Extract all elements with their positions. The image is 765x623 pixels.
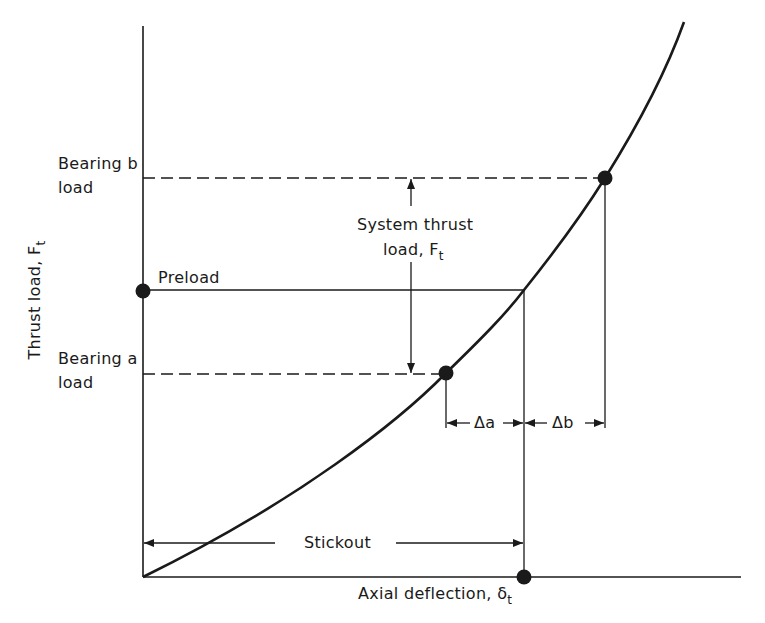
x-axis-label-sub: t <box>507 593 512 607</box>
preload-label: Preload <box>158 268 220 288</box>
preload-point <box>136 284 151 299</box>
bearing-a-label-line2: load <box>58 373 93 393</box>
deflection-point <box>517 570 532 585</box>
system-thrust-label-line2: load, Ft <box>383 240 444 261</box>
system-thrust-label-text: load, F <box>383 240 439 259</box>
bearing-a-point <box>439 366 454 381</box>
delta-a-label: Δa <box>474 413 495 433</box>
bearing-a-label-line1: Bearing a <box>58 349 138 369</box>
system-thrust-label-sub: t <box>439 249 444 263</box>
load-deflection-curve <box>143 22 684 577</box>
delta-b-label: Δb <box>552 413 574 433</box>
system-thrust-label-line1: System thrust <box>357 215 473 235</box>
diagram-canvas: Thrust load, Ft Bearing b load Bearing a… <box>0 0 765 623</box>
y-axis-label: Thrust load, Ft <box>25 240 44 359</box>
diagram-svg <box>0 0 765 623</box>
bearing-b-point <box>598 171 613 186</box>
stickout-label: Stickout <box>304 533 371 553</box>
y-axis-label-text: Thrust load, F <box>25 245 44 359</box>
bearing-b-label-line2: load <box>58 178 93 198</box>
x-axis-label-text: Axial deflection, δ <box>358 584 507 603</box>
bearing-b-label-line1: Bearing b <box>58 154 138 174</box>
x-axis-label: Axial deflection, δt <box>358 584 512 605</box>
y-axis-label-sub: t <box>34 240 48 245</box>
